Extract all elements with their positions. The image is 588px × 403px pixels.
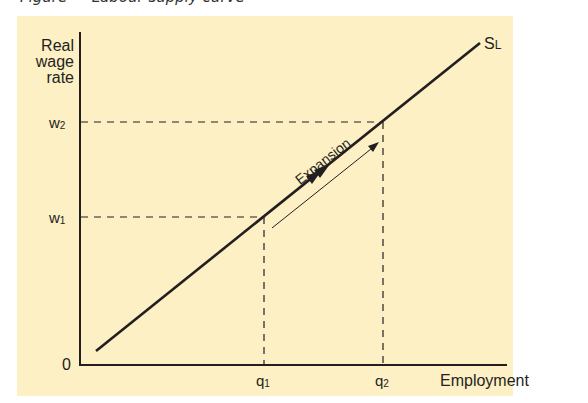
w2-label: w2 bbox=[49, 114, 65, 133]
w1-label: w1 bbox=[49, 209, 65, 228]
supply-curve bbox=[96, 43, 480, 351]
q1-label: q1 bbox=[256, 372, 270, 391]
supply-curve-label: SL bbox=[484, 35, 501, 54]
x-axis-label: Employment bbox=[440, 372, 529, 389]
y-axis-label: Real wage rate bbox=[30, 38, 74, 86]
labour-supply-diagram bbox=[0, 0, 588, 403]
q2-label: q2 bbox=[375, 372, 389, 391]
origin-label: 0 bbox=[62, 356, 71, 373]
